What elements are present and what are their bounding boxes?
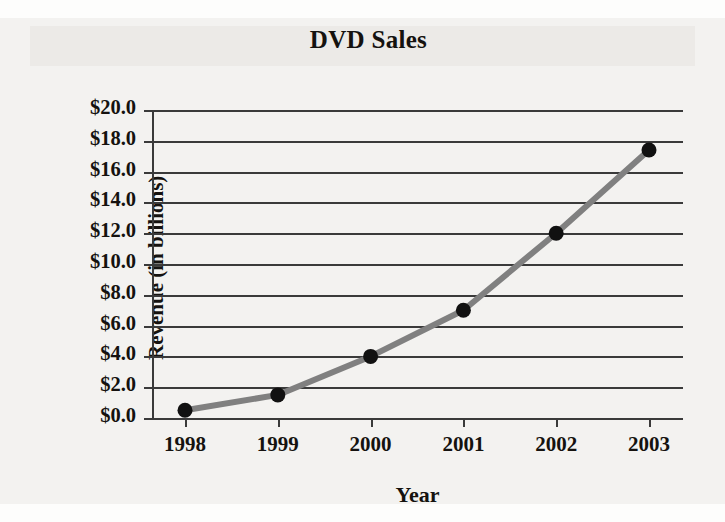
x-axis-tick [556,418,558,427]
y-axis-label: $10.0 [4,250,136,273]
chart-title-text: DVD Sales [310,26,427,53]
y-axis-label: $12.0 [4,219,136,242]
data-point-marker [178,403,193,418]
data-series-svg [152,110,683,418]
y-axis-tick [144,110,152,112]
chart-title: DVD Sales [0,26,725,54]
x-axis-line [152,418,683,420]
y-axis-tick [144,141,152,143]
y-axis-tick [144,264,152,266]
y-axis-tick [144,233,152,235]
chart-figure: DVD Sales Revenue (in billions) $20.0$18… [0,0,725,522]
data-point-marker [456,303,471,318]
x-axis-title: Year [152,482,683,508]
y-axis-tick [144,418,152,420]
data-point-marker [270,387,285,402]
y-axis-label: $14.0 [4,188,136,211]
y-axis-label: $4.0 [4,342,136,365]
x-axis-tick [185,418,187,427]
x-axis-tick [278,418,280,427]
x-axis-label: 2003 [594,432,704,457]
y-axis-label: $16.0 [4,158,136,181]
series-markers-group [178,143,657,418]
plot-area: Revenue (in billions) $20.0$18.0$16.0$14… [152,110,683,418]
x-axis-tick [371,418,373,427]
y-axis-tick [144,387,152,389]
y-axis-tick [144,202,152,204]
y-axis-label: $18.0 [4,127,136,150]
series-line-dvd-sales [185,150,649,410]
y-axis-tick [144,326,152,328]
x-axis-tick [463,418,465,427]
data-point-marker [549,226,564,241]
y-axis-label: $2.0 [4,373,136,396]
y-axis-label: $20.0 [4,96,136,119]
y-axis-tick [144,295,152,297]
y-axis-tick [144,356,152,358]
data-point-marker [363,349,378,364]
y-axis-label: $6.0 [4,312,136,335]
y-axis-label: $8.0 [4,281,136,304]
data-point-marker [642,143,657,158]
y-axis-tick [144,172,152,174]
y-axis-label: $0.0 [4,404,136,427]
x-axis-tick [649,418,651,427]
